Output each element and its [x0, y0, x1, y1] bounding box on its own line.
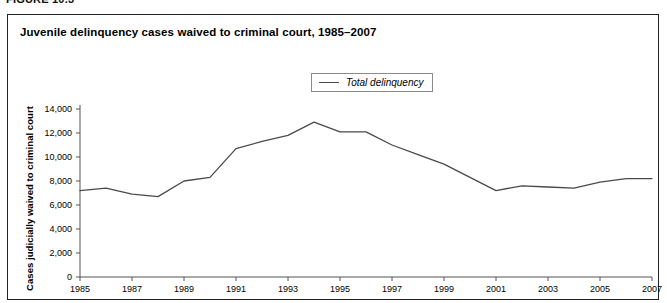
y-tick-label: 12,000 [8, 128, 72, 138]
x-tick-label: 1997 [382, 284, 402, 294]
x-tick-label: 2001 [486, 284, 506, 294]
data-line-total-delinquency [80, 122, 652, 196]
y-tick-label: 14,000 [8, 104, 72, 114]
x-tick-label: 1993 [278, 284, 298, 294]
plot-area: 02,0004,0006,0008,00010,00012,00014,000 … [8, 15, 660, 301]
x-tick-label: 1989 [174, 284, 194, 294]
x-tick-label: 2003 [538, 284, 558, 294]
x-tick-label: 2007 [642, 284, 662, 294]
x-tick-label: 1987 [122, 284, 142, 294]
x-tick-label: 1991 [226, 284, 246, 294]
y-tick-label: 8,000 [8, 176, 72, 186]
x-tick-label: 1999 [434, 284, 454, 294]
chart-canvas [8, 15, 660, 301]
y-tick-label: 0 [8, 272, 72, 282]
y-tick-label: 10,000 [8, 152, 72, 162]
axis-lines [80, 105, 652, 277]
y-tick-label: 6,000 [8, 200, 72, 210]
tick-marks [76, 109, 652, 281]
y-tick-label: 2,000 [8, 248, 72, 258]
figure-box: Juvenile delinquency cases waived to cri… [7, 14, 659, 300]
x-tick-label: 1995 [330, 284, 350, 294]
x-tick-label: 2005 [590, 284, 610, 294]
figure-number-label: FIGURE 10.3 [6, 0, 74, 5]
y-tick-label: 4,000 [8, 224, 72, 234]
x-tick-label: 1985 [70, 284, 90, 294]
series-lines [80, 122, 652, 196]
